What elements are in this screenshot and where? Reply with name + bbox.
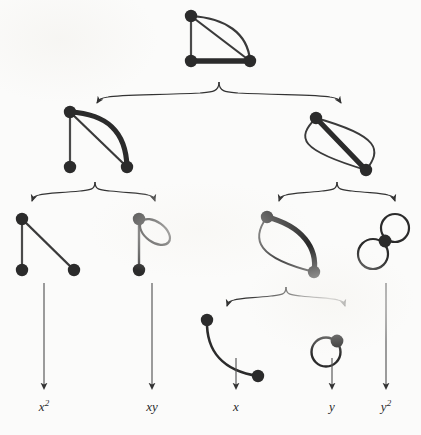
vertex — [185, 55, 197, 67]
graph-edge-with-loop-graph — [133, 213, 175, 276]
edge-curve — [207, 320, 258, 376]
brace-right-split — [279, 182, 395, 201]
vertex — [261, 211, 273, 223]
vertex — [331, 335, 344, 348]
vertex — [360, 164, 372, 176]
label-y-squared: y2 — [381, 398, 391, 415]
brace-root-split — [97, 82, 341, 103]
vertex — [252, 370, 264, 382]
label-base: xy — [146, 399, 158, 414]
edge-curve-thick — [267, 217, 315, 272]
brace-left-split — [32, 182, 155, 201]
vertex — [379, 235, 392, 248]
vertex — [64, 106, 76, 118]
figure-canvas: x2 xy x y y2 — [0, 0, 421, 435]
label-xy: xy — [146, 398, 158, 415]
graph-single-edge-graph — [201, 314, 264, 382]
vertex — [310, 112, 322, 124]
brace-double-edge-split — [227, 287, 345, 306]
vertex — [308, 266, 320, 278]
label-base: y — [329, 399, 335, 414]
label-base: x — [233, 399, 239, 414]
vertex — [68, 264, 80, 276]
vertex — [133, 264, 145, 276]
vertex — [121, 161, 133, 173]
graph-single-loop-graph — [312, 335, 344, 367]
graph-path-graph — [16, 213, 80, 276]
vertex — [16, 264, 28, 276]
graph-reduction-diagram — [0, 0, 421, 435]
graph-left-branch-graph — [64, 106, 133, 173]
vertex — [64, 161, 76, 173]
vertex — [185, 10, 197, 22]
vertex — [16, 213, 28, 225]
graph-double-loop-graph — [358, 214, 409, 269]
label-y: y — [329, 398, 335, 415]
vertex — [201, 314, 213, 326]
edge-diagonal — [22, 219, 74, 270]
graph-right-branch-graph — [305, 112, 374, 176]
graph-root-graph — [185, 10, 256, 67]
label-exponent: 2 — [45, 398, 50, 408]
vertex — [133, 213, 145, 225]
label-x-squared: x2 — [39, 398, 49, 415]
vertex — [244, 55, 256, 67]
label-x: x — [233, 398, 239, 415]
label-exponent: 2 — [387, 398, 392, 408]
graph-double-edge-graph — [259, 211, 320, 278]
